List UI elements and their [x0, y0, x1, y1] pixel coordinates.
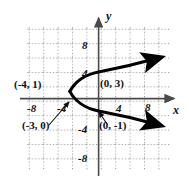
graph-canvas	[0, 0, 189, 189]
point-label-0-neg1: (0, -1)	[99, 120, 127, 131]
graph-figure: 8 4 -4 -8 -8 -4 4 8 y x (-4, 1) (-3, 0) …	[0, 0, 189, 189]
x-axis-label: x	[173, 104, 179, 116]
x-tick-8: 8	[145, 102, 151, 113]
x-tick-neg8: -8	[27, 103, 36, 114]
x-tick-4: 4	[116, 103, 122, 114]
y-tick-neg4: -4	[78, 124, 87, 135]
point-label-neg3-0: (-3, 0)	[22, 120, 50, 131]
x-tick-neg4: -4	[57, 103, 66, 114]
y-tick-neg8: -8	[78, 153, 87, 164]
y-tick-8: 8	[82, 40, 88, 51]
point-label-0-3: (0, 3)	[100, 78, 124, 89]
y-axis-label: y	[106, 10, 111, 22]
y-tick-4: 4	[82, 68, 88, 79]
point-label-vertex: (-4, 1)	[14, 79, 42, 90]
